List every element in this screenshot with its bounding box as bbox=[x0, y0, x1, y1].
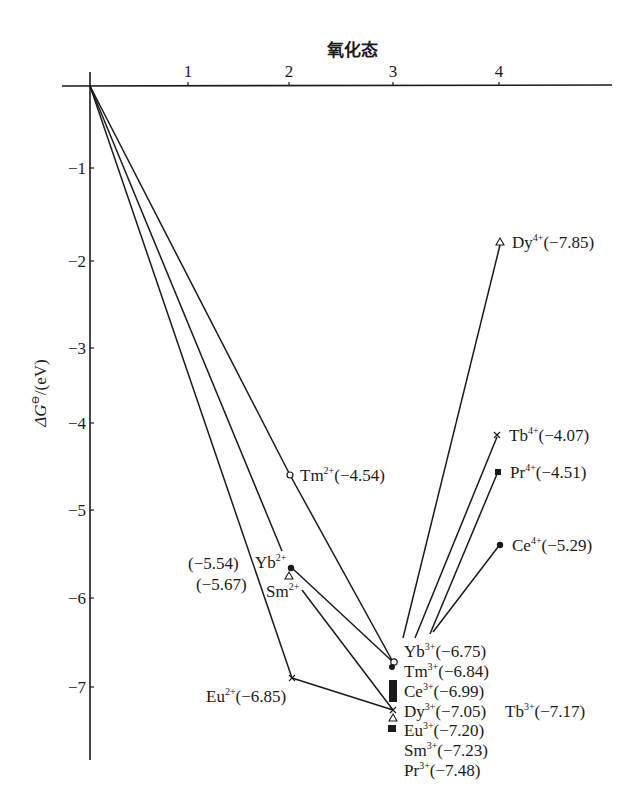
y-tick-2: −2 bbox=[68, 252, 86, 271]
y-tick-4: −4 bbox=[68, 414, 87, 433]
x-ticks: 1 2 3 4 bbox=[184, 62, 504, 86]
line-eu-0-2 bbox=[90, 86, 292, 678]
y-tick-3: −3 bbox=[68, 339, 86, 358]
chart: 氧化态 1 2 3 4 −1 −2 −3 −4 −5 −6 −7 ΔG⊖/(eV… bbox=[0, 0, 634, 812]
label-ce4: Ce4+(−5.29) bbox=[512, 535, 592, 555]
label-sm2: Sm2+ bbox=[266, 581, 300, 601]
y-tick-6: −6 bbox=[68, 589, 86, 608]
label-pr3: Pr3+(−7.48) bbox=[404, 760, 480, 780]
label-tb4: Tb4+(−4.07) bbox=[509, 425, 589, 445]
ce3-marker-rect bbox=[389, 680, 397, 702]
tb3-marker-triangle bbox=[389, 714, 397, 721]
label-yb2: Yb2+ bbox=[255, 552, 287, 572]
label-ce3: Ce3+(−6.99) bbox=[404, 681, 484, 701]
line-ce-3-4 bbox=[433, 547, 498, 632]
label-tb3: Tb3+(−7.17) bbox=[505, 701, 585, 721]
yb2-marker-dot bbox=[288, 565, 294, 571]
label-tm3: Tm3+(−6.84) bbox=[404, 661, 489, 681]
label-tm2: Tm2+(−4.54) bbox=[300, 465, 385, 485]
label-sm2-value: (−5.67) bbox=[196, 575, 247, 594]
label-eu3: Eu3+(−7.20) bbox=[404, 720, 484, 740]
label-dy4: Dy4+(−7.85) bbox=[512, 232, 594, 252]
line-pr-3-4 bbox=[430, 474, 497, 634]
pr4-marker-square bbox=[495, 469, 501, 475]
y-axis-title: ΔG⊖/(eV) bbox=[29, 359, 50, 427]
line-tm-0-2 bbox=[90, 86, 290, 475]
label-pr4: Pr4+(−4.51) bbox=[510, 462, 586, 482]
dy4-marker-triangle bbox=[496, 238, 504, 245]
x-tick-3: 3 bbox=[389, 62, 398, 81]
label-dy3: Dy3+(−7.05) bbox=[404, 701, 486, 721]
label-eu2: Eu2+(−6.85) bbox=[206, 686, 286, 706]
label-sm3: Sm3+(−7.23) bbox=[404, 740, 488, 760]
x-axis bbox=[62, 85, 612, 86]
line-eu-2-3 bbox=[292, 678, 393, 710]
ce4-marker-dot bbox=[497, 542, 503, 548]
y-tick-7: −7 bbox=[68, 678, 87, 697]
eu3-marker-square bbox=[388, 725, 396, 732]
y-tick-5: −5 bbox=[68, 501, 86, 520]
label-yb2-value: (−5.54) bbox=[188, 554, 239, 573]
x-tick-4: 4 bbox=[495, 62, 504, 81]
tm2-marker-circle bbox=[287, 472, 293, 478]
x-tick-2: 2 bbox=[285, 62, 294, 81]
line-dy-3-4 bbox=[403, 245, 500, 638]
line-yb-0-2 bbox=[90, 86, 282, 551]
series-lines bbox=[90, 86, 500, 710]
yb3-marker-dot bbox=[389, 664, 395, 670]
line-yb-2-3 bbox=[292, 568, 393, 662]
x-axis-title: 氧化态 bbox=[326, 40, 378, 60]
line-tm-2-3 bbox=[290, 475, 393, 662]
sm2-marker-triangle bbox=[285, 572, 293, 579]
x-tick-1: 1 bbox=[184, 62, 193, 81]
label-yb3: Yb3+(−6.75) bbox=[404, 641, 486, 661]
y-tick-1: −1 bbox=[68, 159, 86, 178]
